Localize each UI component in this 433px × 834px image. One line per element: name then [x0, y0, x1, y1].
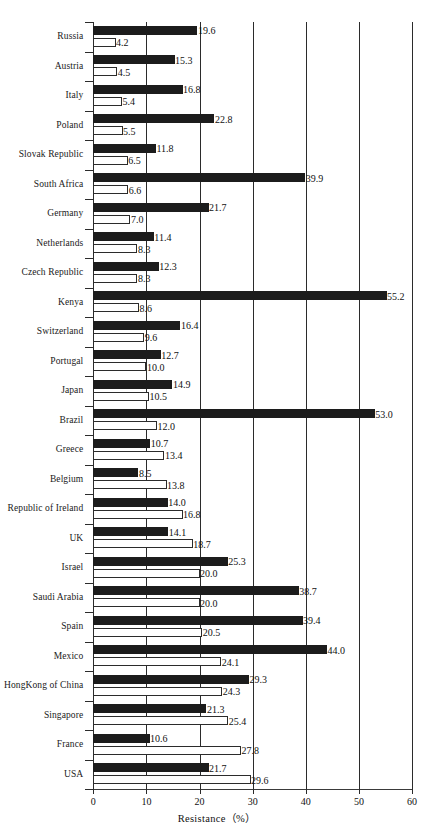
category-tick	[85, 553, 93, 554]
bar-light: 24.1	[93, 657, 221, 666]
bar-value-label: 24.1	[222, 656, 240, 669]
category-tick	[85, 465, 93, 466]
bar-light: 8.3	[93, 274, 137, 283]
bar-light: 13.4	[93, 451, 164, 460]
bar-light: 7.0	[93, 215, 130, 224]
category-tick	[85, 524, 93, 525]
category-label: Switzerland	[37, 325, 83, 337]
bar-light: 27.8	[93, 746, 241, 755]
category-tick	[85, 701, 93, 702]
x-tick-20	[200, 789, 201, 794]
x-tick-label-0: 0	[78, 796, 108, 808]
category-label: Singapore	[44, 709, 83, 721]
plot-area: Russia19.64.2Austria15.34.5Italy16.85.4P…	[93, 22, 412, 789]
x-axis-title: Resistance（%）	[0, 810, 433, 825]
bar-value-label: 53.0	[375, 408, 393, 421]
category-label: UK	[69, 532, 83, 544]
bar-value-label: 16.8	[183, 508, 201, 521]
bar-group: Germany21.77.0	[93, 199, 412, 229]
bar-value-label: 18.7	[193, 538, 211, 551]
bar-dark: 25.3	[93, 557, 227, 566]
x-tick-0	[93, 789, 94, 794]
bar-group: USA21.729.6	[93, 760, 412, 790]
bar-value-label: 25.4	[229, 715, 247, 728]
bar-value-label: 38.7	[299, 585, 317, 598]
bar-group: Greece10.713.4	[93, 435, 412, 465]
bar-light: 12.0	[93, 421, 157, 430]
bar-dark: 21.7	[93, 203, 208, 212]
category-tick	[85, 583, 93, 584]
category-tick	[85, 730, 93, 731]
bar-group: Poland22.85.5	[93, 111, 412, 141]
bar-light: 25.4	[93, 716, 228, 725]
bar-light: 9.6	[93, 333, 144, 342]
bar-dark: 12.7	[93, 350, 160, 359]
category-tick	[85, 494, 93, 495]
category-label: Germany	[47, 207, 83, 219]
category-tick	[85, 760, 93, 761]
bar-value-label: 21.7	[209, 762, 227, 775]
category-label: Republic of Ireland	[8, 502, 84, 514]
category-label: France	[57, 738, 83, 750]
bar-light: 6.5	[93, 156, 128, 165]
bar-group: Singapore21.325.4	[93, 701, 412, 731]
bar-dark: 22.8	[93, 114, 214, 123]
bar-dark: 29.3	[93, 675, 249, 684]
bar-light: 24.3	[93, 687, 222, 696]
bar-value-label: 10.5	[150, 390, 168, 403]
bar-dark: 21.7	[93, 763, 208, 772]
bar-group: HongKong of China29.324.3	[93, 671, 412, 701]
bar-group: Republic of Ireland14.016.8	[93, 494, 412, 524]
bar-dark: 39.9	[93, 173, 305, 182]
x-tick-60	[412, 789, 413, 794]
x-tick-30	[253, 789, 254, 794]
category-label: Belgium	[50, 473, 83, 485]
bar-value-label: 20.0	[200, 567, 218, 580]
bar-value-label: 39.9	[306, 172, 324, 185]
bar-group: Mexico44.024.1	[93, 642, 412, 672]
category-label: Brazil	[59, 414, 83, 426]
bar-light: 4.2	[93, 38, 115, 47]
category-tick	[85, 22, 93, 23]
category-tick	[85, 52, 93, 53]
bar-value-label: 7.0	[131, 213, 144, 226]
bar-value-label: 29.3	[249, 673, 267, 686]
bar-group: Russia19.64.2	[93, 22, 412, 52]
bar-value-label: 5.5	[123, 125, 136, 138]
bar-value-label: 55.2	[387, 290, 405, 303]
category-tick	[85, 170, 93, 171]
bar-value-label: 8.6	[139, 302, 152, 315]
bar-light: 10.0	[93, 362, 146, 371]
category-label: Mexico	[54, 650, 84, 662]
bar-value-label: 4.5	[118, 66, 131, 79]
bar-value-label: 11.4	[154, 231, 171, 244]
bar-dark: 14.0	[93, 498, 167, 507]
bar-dark: 11.8	[93, 144, 156, 153]
category-tick	[85, 612, 93, 613]
x-tick-10	[146, 789, 147, 794]
category-tick	[85, 140, 93, 141]
category-tick	[85, 406, 93, 407]
bar-value-label: 19.6	[198, 24, 216, 37]
bar-value-label: 12.0	[158, 420, 176, 433]
x-tick-label-60: 60	[397, 796, 427, 808]
bar-light: 13.8	[93, 480, 166, 489]
x-tick-label-30: 30	[238, 796, 268, 808]
bar-light: 20.5	[93, 628, 202, 637]
category-label: Slovak Republic	[19, 148, 84, 160]
category-label: Greece	[56, 443, 84, 455]
bar-light: 10.5	[93, 392, 149, 401]
bar-light: 4.5	[93, 67, 117, 76]
bar-value-label: 11.8	[156, 142, 173, 155]
category-label: Italy	[65, 89, 83, 101]
bar-group: Japan14.910.5	[93, 376, 412, 406]
category-label: Portugal	[50, 355, 83, 367]
category-tick	[85, 199, 93, 200]
bar-value-label: 20.5	[203, 626, 221, 639]
bar-group: France10.627.8	[93, 730, 412, 760]
bar-group: Czech Republic12.38.3	[93, 258, 412, 288]
bar-value-label: 5.4	[122, 95, 135, 108]
bar-light: 29.6	[93, 775, 250, 784]
bar-dark: 14.1	[93, 527, 168, 536]
bar-value-label: 8.3	[138, 243, 151, 256]
